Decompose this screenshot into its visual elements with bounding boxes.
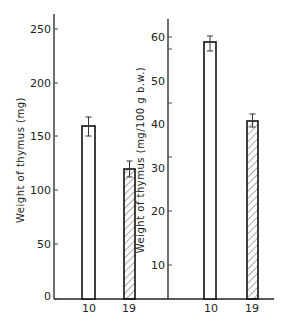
right-tick-label: 10 (151, 259, 165, 272)
right-tick-label: 20 (151, 205, 165, 218)
left-tick-label: 250 (30, 23, 51, 36)
left-x-label-10: 10 (82, 302, 96, 315)
left-x-label-19: 19 (122, 302, 136, 315)
right-tick-label: 50 (151, 75, 165, 88)
left-y-axis-label: Weight of thymus (mg) (15, 97, 26, 223)
right-x-label-19: 19 (245, 302, 259, 315)
left-bar-19 (124, 169, 135, 299)
right-tick-label: 60 (151, 31, 165, 44)
left-tick-label: 100 (30, 184, 51, 197)
right-x-label-10: 10 (204, 302, 218, 315)
right-chart: 10 20 30 40 50 60 Weight of thymus (mg/1… (135, 19, 274, 315)
left-tick-label: 0 (44, 290, 51, 303)
left-tick-label: 200 (30, 77, 51, 90)
right-tick-label: 30 (151, 162, 165, 175)
figure: 0 50 100 150 200 250 Weight of thymus (m… (0, 0, 285, 322)
left-tick-label: 50 (37, 238, 51, 251)
left-bar-10 (82, 126, 95, 299)
right-tick-label: 40 (151, 118, 165, 131)
left-tick-label: 150 (30, 130, 51, 143)
right-bar-19 (247, 121, 258, 299)
right-bar-10 (204, 42, 216, 299)
right-y-axis-label: Weight of thymus (mg/100 g b.w.) (135, 67, 146, 254)
